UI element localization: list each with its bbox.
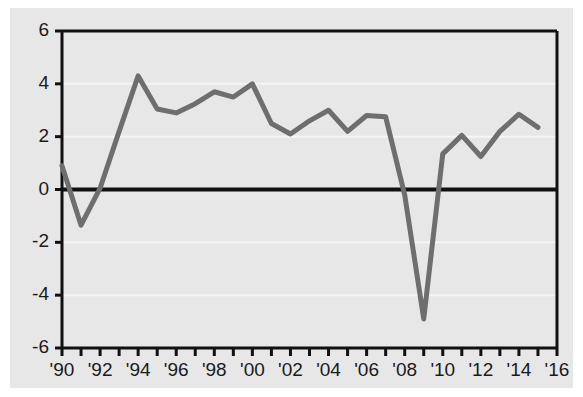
series-line[interactable]: [62, 76, 538, 319]
data-series[interactable]: [62, 76, 538, 319]
x-tick-label: '00: [240, 359, 265, 380]
x-tick-labels: '90'92'94'96'98'00'02'04'06'08'10'12'14'…: [50, 359, 570, 380]
x-tick-label: '12: [468, 359, 493, 380]
y-tick-label: -2: [32, 230, 49, 251]
line-chart[interactable]: 6420-2-4-6 '90'92'94'96'98'00'02'04'06'0…: [0, 0, 583, 397]
x-tick-label: '16: [545, 359, 570, 380]
x-tick-label: '14: [507, 359, 532, 380]
y-tick-label: -6: [32, 336, 49, 357]
x-tick-label: '08: [392, 359, 417, 380]
y-tick-label: -4: [32, 283, 49, 304]
x-tick-label: '92: [88, 359, 113, 380]
x-tick-label: '06: [354, 359, 379, 380]
x-tick-label: '94: [126, 359, 151, 380]
y-tick-label: 4: [38, 72, 49, 93]
y-tick-label: 2: [38, 125, 49, 146]
x-tick-label: '04: [316, 359, 341, 380]
x-tick-label: '10: [430, 359, 455, 380]
x-tick-label: '96: [164, 359, 189, 380]
x-tick-label: '90: [50, 359, 75, 380]
x-axis: [62, 348, 557, 356]
chart-figure: 6420-2-4-6 '90'92'94'96'98'00'02'04'06'0…: [0, 0, 583, 397]
x-tick-label: '98: [202, 359, 227, 380]
y-tick-label: 6: [38, 19, 49, 40]
x-tick-label: '02: [278, 359, 303, 380]
y-tick-label: 0: [38, 178, 49, 199]
y-tick-labels: 6420-2-4-6: [32, 19, 49, 357]
